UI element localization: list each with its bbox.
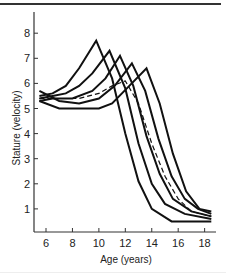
x-tick-label: 14 xyxy=(146,237,158,249)
x-tick-label: 10 xyxy=(93,237,105,249)
x-tick-label: 12 xyxy=(119,237,131,249)
x-tick-label: 8 xyxy=(69,237,75,249)
y-tick-label: 8 xyxy=(24,27,30,39)
y-tick-label: 6 xyxy=(24,77,30,89)
x-axis-label: Age (years) xyxy=(100,254,152,265)
series-line-individual-5 xyxy=(39,68,211,211)
y-tick-label: 4 xyxy=(24,128,30,140)
y-tick-label: 5 xyxy=(24,103,30,115)
x-tick-label: 6 xyxy=(43,237,49,249)
y-tick-label: 2 xyxy=(24,178,30,190)
y-tick-label: 7 xyxy=(24,52,30,64)
x-tick-label: 16 xyxy=(172,237,184,249)
x-tick-label: 18 xyxy=(199,237,211,249)
y-tick-label: 1 xyxy=(24,203,30,215)
growth-velocity-chart: 12345678681012141618 Age (years) Stature… xyxy=(0,0,226,278)
data-lines xyxy=(39,41,211,222)
bottom-rule xyxy=(0,272,226,273)
y-axis-label: Stature (velocity) xyxy=(11,90,22,165)
y-tick-label: 3 xyxy=(24,153,30,165)
